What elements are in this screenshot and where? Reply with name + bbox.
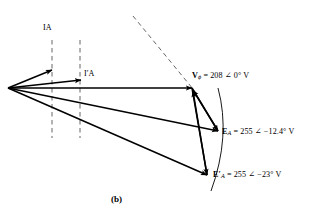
label-ea: EA = 255 ∠ −12.4° V	[222, 128, 294, 136]
phasor-diagram-figure: IA I′A Vϕ = 208 ∠ 0° V EA = 255 ∠ −12.4°…	[0, 0, 322, 212]
max-power-angle-line	[133, 16, 193, 89]
label-ia-prime-subscript: A	[88, 69, 94, 78]
label-vphi-value: = 208 ∠ 0° V	[201, 71, 249, 80]
phasor-ea	[8, 88, 218, 131]
label-vphi: Vϕ = 208 ∠ 0° V	[192, 72, 249, 80]
label-ia-prime: I′A	[84, 70, 94, 78]
label-ea-prime-value: = 255 ∠ −23° V	[225, 170, 282, 179]
label-ea-value: = 255 ∠ −12.4° V	[231, 127, 294, 136]
label-ea-prime: E′A = 255 ∠ −23° V	[213, 171, 281, 179]
phasor-ea-prime	[8, 88, 207, 175]
figure-caption: (b)	[111, 194, 122, 204]
label-ia-subscript: A	[46, 23, 52, 32]
closing-line-eaprime-to-vphi	[193, 91, 207, 175]
label-ia: IA	[43, 24, 52, 32]
